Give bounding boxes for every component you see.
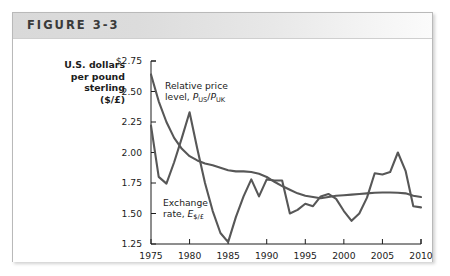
x-tick-label: 2000 [332,250,356,261]
y-tick-label: 2.00 [122,147,143,158]
x-axis-tick-labels: 19751980198519901995200020052010 [139,239,433,261]
y-tick-label: 2.50 [122,86,143,97]
annotation-exchange-rate: Exchange rate, E$/£ [163,197,208,221]
series-line [151,112,421,242]
chart-area: U.S. dollars per pound sterling ($/£) $2… [13,39,432,262]
y-tick-label: 1.50 [122,208,143,219]
annotation-relative-price-level: Relative price level, PUS/PUK [165,80,228,104]
figure-screenshot: FIGURE 3-3 U.S. dollars per pound sterli… [0,0,450,276]
x-tick-label: 1980 [178,250,202,261]
svg-text:level, PUS/PUK: level, PUS/PUK [165,91,226,104]
y-tick-label: 1.25 [122,238,143,249]
svg-text:Exchange: Exchange [163,197,208,208]
x-tick-label: 1990 [255,250,279,261]
x-tick-label: 1975 [139,250,163,261]
y-axis-tick-labels: $2.752.502.252.001.751.501.25 [116,55,156,249]
figure-title: FIGURE 3-3 [27,18,119,32]
y-tick-label: 1.75 [122,177,143,188]
svg-text:Relative price: Relative price [165,80,228,91]
y-tick-label: $2.75 [116,55,142,66]
figure-card: FIGURE 3-3 U.S. dollars per pound sterli… [12,12,433,262]
x-tick-label: 1995 [294,250,318,261]
svg-text:rate, E$/£: rate, E$/£ [163,208,204,221]
x-tick-label: 2005 [371,250,395,261]
x-tick-label: 1985 [216,250,240,261]
x-tick-label: 2010 [409,250,433,261]
y-tick-label: 2.25 [122,116,143,127]
line-chart-svg: $2.752.502.252.001.751.501.25 1975198019… [13,39,434,262]
